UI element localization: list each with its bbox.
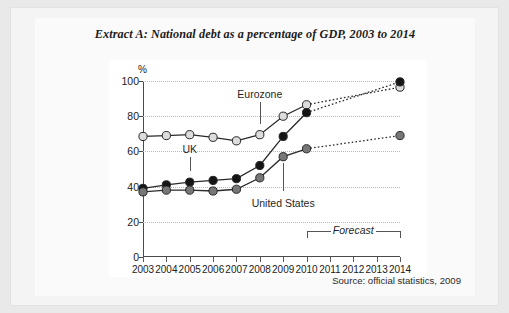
data-point-marker bbox=[162, 131, 170, 139]
data-point-marker bbox=[302, 145, 310, 153]
data-point-marker bbox=[139, 132, 147, 140]
x-axis-tick-mark bbox=[143, 257, 144, 262]
label-leader-line bbox=[190, 157, 191, 171]
data-point-marker bbox=[396, 131, 404, 139]
x-axis-tick-mark bbox=[307, 257, 308, 262]
data-point-marker bbox=[139, 188, 147, 196]
data-point-marker bbox=[209, 133, 217, 141]
y-axis-tick-label: 20 bbox=[127, 216, 139, 228]
data-point-marker bbox=[209, 187, 217, 195]
y-axis-tick-label: 100 bbox=[121, 75, 139, 87]
data-point-marker bbox=[162, 186, 170, 194]
data-point-marker bbox=[232, 185, 240, 193]
data-point-marker bbox=[279, 132, 287, 140]
document-page: Extract A: National debt as a percentage… bbox=[11, 8, 498, 305]
x-axis-tick-label: 2010 bbox=[295, 264, 317, 275]
y-axis-tick-label: 80 bbox=[127, 110, 139, 122]
x-axis-tick-label: 2009 bbox=[272, 264, 294, 275]
data-point-marker bbox=[186, 186, 194, 194]
data-point-marker bbox=[302, 101, 310, 109]
x-axis-tick-label: 2012 bbox=[342, 264, 364, 275]
y-axis-tick-label: 60 bbox=[127, 145, 139, 157]
source-note: Source: official statistics, 2009 bbox=[332, 275, 461, 286]
series-label-united-states: United States bbox=[252, 197, 315, 209]
x-axis-tick-mark bbox=[213, 257, 214, 262]
data-point-marker bbox=[256, 131, 264, 139]
label-leader-line bbox=[283, 163, 284, 191]
chart-canvas: % 020406080100 2003200420052006200720082… bbox=[109, 60, 427, 277]
x-axis-tick-mark bbox=[330, 257, 331, 262]
x-axis-tick-label: 2008 bbox=[249, 264, 271, 275]
data-point-marker bbox=[279, 112, 287, 120]
extract-title: Extract A: National debt as a percentage… bbox=[35, 27, 475, 42]
x-axis-tick-mark bbox=[353, 257, 354, 262]
data-point-marker bbox=[256, 174, 264, 182]
data-point-marker bbox=[256, 161, 264, 169]
plot-area: 020406080100 200320042005200620072008200… bbox=[143, 81, 400, 257]
data-point-marker bbox=[279, 153, 287, 161]
x-axis-tick-label: 2007 bbox=[225, 264, 247, 275]
x-axis-tick-mark bbox=[260, 257, 261, 262]
series-label-eurozone: Eurozone bbox=[237, 88, 282, 100]
forecast-label: Forecast bbox=[333, 224, 374, 236]
forecast-bracket-right bbox=[376, 231, 401, 238]
x-axis-tick-label: 2005 bbox=[179, 264, 201, 275]
data-point-marker bbox=[232, 175, 240, 183]
x-axis-tick-label: 2013 bbox=[366, 264, 388, 275]
screenshot-root: Extract A: National debt as a percentage… bbox=[0, 0, 509, 313]
data-point-marker bbox=[186, 178, 194, 186]
x-axis-tick-label: 2014 bbox=[389, 264, 411, 275]
data-point-marker bbox=[232, 137, 240, 145]
x-axis-tick-mark bbox=[283, 257, 284, 262]
x-axis-tick-label: 2003 bbox=[132, 264, 154, 275]
data-point-marker bbox=[302, 109, 310, 117]
x-axis-tick-mark bbox=[236, 257, 237, 262]
label-leader-line bbox=[260, 102, 261, 124]
series-line bbox=[143, 113, 307, 189]
extract-panel: Extract A: National debt as a percentage… bbox=[35, 18, 475, 296]
x-axis-tick-mark bbox=[190, 257, 191, 262]
x-axis-tick-label: 2006 bbox=[202, 264, 224, 275]
y-axis-unit-label: % bbox=[138, 64, 147, 75]
data-point-marker bbox=[209, 176, 217, 184]
data-point-marker bbox=[396, 78, 404, 86]
y-axis-tick-label: 40 bbox=[127, 181, 139, 193]
data-point-marker bbox=[186, 131, 194, 139]
x-axis-tick-label: 2004 bbox=[155, 264, 177, 275]
series-forecast-line bbox=[307, 136, 400, 149]
series-forecast-line bbox=[307, 82, 400, 113]
forecast-bracket-left bbox=[307, 231, 332, 238]
series-forecast-line bbox=[307, 87, 400, 105]
x-axis-tick-mark bbox=[377, 257, 378, 262]
x-axis-tick-label: 2011 bbox=[319, 264, 341, 275]
series-united-states bbox=[139, 131, 404, 196]
x-axis-tick-mark bbox=[166, 257, 167, 262]
series-label-uk: UK bbox=[182, 143, 197, 155]
x-axis-tick-mark bbox=[400, 257, 401, 262]
